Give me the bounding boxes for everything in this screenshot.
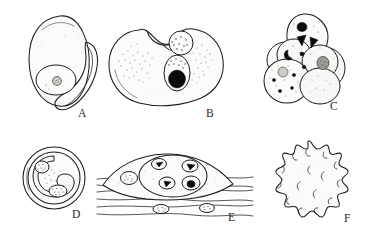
panel-f-label: F (344, 212, 351, 224)
panel-b-drawing (105, 18, 230, 113)
panel-e-label: E (228, 211, 235, 223)
panel-d: D (16, 142, 96, 217)
panel-f: F (262, 138, 357, 223)
panel-d-drawing (16, 142, 96, 217)
panel-a-drawing (20, 12, 115, 112)
panel-f-drawing (262, 138, 357, 223)
panel-e-drawing (95, 145, 255, 220)
panel-a: A (20, 12, 115, 112)
panel-b: B (105, 18, 230, 113)
panel-d-label: D (72, 208, 81, 220)
panel-c-drawing (258, 10, 353, 110)
panel-c-label: C (330, 100, 338, 112)
panel-e: E (95, 145, 255, 220)
figure-plate: A (0, 0, 371, 236)
panel-a-label: A (78, 107, 87, 119)
panel-b-label: B (206, 107, 214, 119)
panel-c: C (258, 10, 353, 110)
